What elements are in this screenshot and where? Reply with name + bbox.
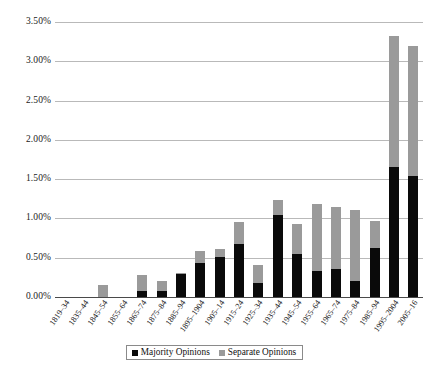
bar-stack[interactable] [195,251,205,297]
bar-slot[interactable] [133,22,152,297]
legend-item[interactable]: Separate Opinions [219,348,296,357]
bar-stack[interactable] [350,210,360,297]
legend-box: Majority OpinionsSeparate Opinions [126,345,303,360]
bar-segment-majority-opinions[interactable] [331,269,341,297]
y-axis-tick-label: 1.00% [3,213,51,223]
bar-slot[interactable] [113,22,132,297]
y-axis-tick-label: 1.50% [3,174,51,184]
bar-stack[interactable] [157,281,167,297]
gray-square-icon [219,350,225,356]
bar-stack[interactable] [312,204,322,297]
bar-segment-separate-opinions[interactable] [408,46,418,176]
legend-item-label: Majority Opinions [141,348,210,357]
bar-segment-separate-opinions[interactable] [98,285,108,297]
bar-segment-separate-opinions[interactable] [312,204,322,272]
bar-segment-majority-opinions[interactable] [312,271,322,297]
bar-stack[interactable] [273,200,283,297]
bar-segment-majority-opinions[interactable] [137,291,147,297]
legend-item[interactable]: Majority Opinions [132,348,210,357]
bar-slot[interactable] [307,22,326,297]
bar-slot[interactable] [210,22,229,297]
bar-segment-majority-opinions[interactable] [215,257,225,297]
y-axis-tick-label: 0.50% [3,253,51,263]
bar-stack[interactable] [370,221,380,297]
bar-stack[interactable] [215,249,225,297]
bar-slot[interactable] [346,22,365,297]
bar-segment-majority-opinions[interactable] [408,176,418,297]
bar-stack[interactable] [389,36,399,297]
bar-segment-separate-opinions[interactable] [215,249,225,257]
bar-stack[interactable] [253,265,263,297]
bar-segment-separate-opinions[interactable] [195,251,205,264]
bar-slot[interactable] [74,22,93,297]
black-square-icon [132,350,138,356]
y-axis-tick-label: 3.00% [3,56,51,66]
bar-segment-majority-opinions[interactable] [389,167,399,297]
bar-segment-separate-opinions[interactable] [389,36,399,167]
bar-slot[interactable] [384,22,403,297]
bar-slot[interactable] [55,22,74,297]
bar-stack[interactable] [98,285,108,297]
bar-slot[interactable] [404,22,423,297]
y-axis-tick-label: 2.50% [3,96,51,106]
bar-segment-majority-opinions[interactable] [350,281,360,298]
bar-segment-majority-opinions[interactable] [370,248,380,298]
bar-stack[interactable] [408,46,418,297]
bar-slot[interactable] [94,22,113,297]
bar-stack[interactable] [137,275,147,297]
y-axis-tick-label: 3.50% [3,17,51,27]
gridline [55,297,423,298]
bar-segment-separate-opinions[interactable] [331,207,341,268]
bar-segment-majority-opinions[interactable] [273,215,283,297]
bar-slot[interactable] [191,22,210,297]
bar-slot[interactable] [365,22,384,297]
bar-segment-separate-opinions[interactable] [137,275,147,291]
bar-segment-majority-opinions[interactable] [253,283,263,297]
bar-segment-separate-opinions[interactable] [370,221,380,248]
y-axis-tick-label: 2.00% [3,135,51,145]
bar-slot[interactable] [288,22,307,297]
bar-segment-separate-opinions[interactable] [234,222,244,244]
bar-segment-separate-opinions[interactable] [157,281,167,290]
bar-slot[interactable] [326,22,345,297]
bar-segment-separate-opinions[interactable] [273,200,283,216]
bar-stack[interactable] [234,222,244,297]
bar-slot[interactable] [249,22,268,297]
bar-stack[interactable] [176,273,186,297]
bar-segment-majority-opinions[interactable] [292,254,302,297]
bar-segment-majority-opinions[interactable] [234,244,244,297]
bar-slot[interactable] [152,22,171,297]
bar-slot[interactable] [171,22,190,297]
plot-area [55,22,423,297]
bar-slot[interactable] [229,22,248,297]
bar-series-group [55,22,423,297]
chart-legend: Majority OpinionsSeparate Opinions [0,345,429,360]
bar-slot[interactable] [268,22,287,297]
legend-item-label: Separate Opinions [228,348,296,357]
bar-segment-separate-opinions[interactable] [350,210,360,281]
y-axis-tick-label: 0.00% [3,292,51,302]
bar-segment-majority-opinions[interactable] [157,291,167,297]
bar-segment-separate-opinions[interactable] [292,224,302,254]
bar-stack[interactable] [292,224,302,297]
bar-segment-separate-opinions[interactable] [253,265,263,283]
bar-segment-majority-opinions[interactable] [195,263,205,297]
x-axis-tick-labels: 1819–341835–441845–541855–641865–741875–… [55,299,423,349]
bar-stack[interactable] [331,207,341,297]
bar-segment-majority-opinions[interactable] [176,274,186,297]
chart-container: 0.00%0.50%1.00%1.50%2.00%2.50%3.00%3.50%… [0,0,429,371]
